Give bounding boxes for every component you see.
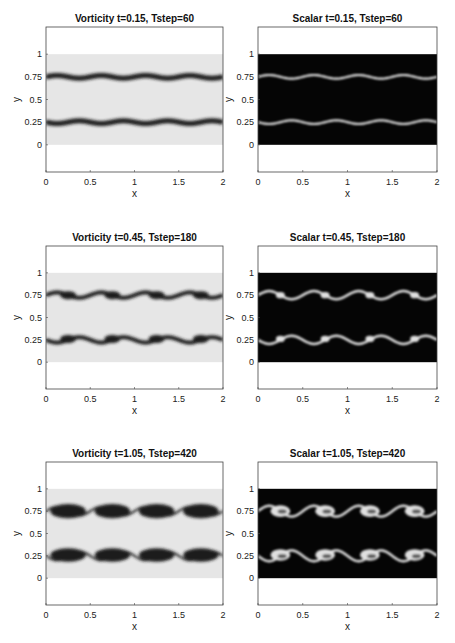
y-tick-label: 1 — [37, 484, 42, 494]
x-tick-label: 0 — [255, 394, 260, 404]
x-tick-label: 1.5 — [172, 394, 185, 404]
y-tick-label: 0 — [37, 357, 42, 367]
vortex-core — [50, 504, 85, 518]
y-tick-label: 0.5 — [29, 95, 42, 105]
x-tick-label: 0 — [255, 177, 260, 187]
panel-scalar-t0.45: Scalar t=0.45, Tstep=18000.511.5200.250.… — [223, 232, 440, 416]
field-domain — [46, 54, 223, 145]
x-tick-label: 0.5 — [296, 610, 309, 620]
x-tick-label: 0 — [255, 610, 260, 620]
spiral-gap — [412, 554, 421, 558]
vortex-core — [149, 335, 165, 343]
y-tick-label: 1 — [37, 268, 42, 278]
field-domain — [258, 54, 437, 145]
panel-title: Scalar t=1.05, Tstep=420 — [290, 448, 406, 459]
spiral-gap — [412, 509, 421, 513]
x-tick-label: 1 — [345, 610, 350, 620]
y-tick-label: 0 — [249, 573, 254, 583]
x-tick-label: 0 — [43, 394, 48, 404]
spiral-gap — [322, 554, 331, 558]
spiral-gap — [367, 554, 376, 558]
x-tick-label: 0.5 — [84, 394, 97, 404]
y-tick-label: 1 — [249, 268, 254, 278]
vortex-core — [104, 335, 120, 343]
y-tick-label: 0.75 — [24, 506, 42, 516]
panel-scalar-t1.05: Scalar t=1.05, Tstep=42000.511.5200.250.… — [223, 448, 440, 632]
x-tick-label: 1 — [132, 177, 137, 187]
y-axis-label: y — [223, 315, 234, 320]
x-tick-label: 1 — [132, 610, 137, 620]
x-tick-label: 1.5 — [172, 610, 185, 620]
vortex-core — [183, 504, 218, 518]
x-tick-label: 0 — [43, 610, 48, 620]
x-axis-label: x — [132, 405, 137, 416]
x-tick-label: 0.5 — [84, 177, 97, 187]
x-tick-label: 0.5 — [296, 177, 309, 187]
y-axis-label: y — [11, 531, 22, 536]
y-tick-label: 0.25 — [236, 117, 254, 127]
vortex-core — [95, 548, 130, 561]
x-axis-label: x — [345, 621, 350, 632]
panel-title: Vorticity t=0.15, Tstep=60 — [75, 13, 195, 24]
panel-title: Vorticity t=1.05, Tstep=420 — [72, 448, 197, 459]
x-tick-label: 0 — [43, 177, 48, 187]
x-axis-label: x — [345, 405, 350, 416]
vortex-core — [193, 291, 209, 299]
y-tick-label: 0.75 — [236, 72, 254, 82]
x-tick-label: 1 — [345, 394, 350, 404]
shear-layer — [46, 121, 223, 124]
spiral-gap — [278, 509, 287, 513]
y-tick-label: 0.25 — [236, 551, 254, 561]
x-tick-label: 1.5 — [172, 177, 185, 187]
field-domain — [46, 489, 223, 578]
y-tick-label: 1 — [249, 49, 254, 59]
y-axis-label: y — [223, 531, 234, 536]
y-tick-label: 1 — [249, 484, 254, 494]
y-tick-label: 0.5 — [29, 313, 42, 323]
vortex-core — [321, 336, 330, 342]
panel-vorticity-t0.45: Vorticity t=0.45, Tstep=18000.511.5200.2… — [11, 232, 226, 416]
panel-vorticity-t0.15: Vorticity t=0.15, Tstep=6000.511.5200.25… — [11, 13, 226, 199]
x-tick-label: 2 — [220, 610, 225, 620]
vortex-core — [183, 548, 218, 561]
spiral-gap — [322, 509, 331, 513]
y-tick-label: 0.5 — [241, 529, 254, 539]
x-tick-label: 2 — [434, 610, 439, 620]
y-tick-label: 0.25 — [24, 551, 42, 561]
vortex-core — [50, 548, 85, 561]
y-tick-label: 0 — [37, 140, 42, 150]
y-tick-label: 1 — [37, 49, 42, 59]
x-tick-label: 1 — [132, 394, 137, 404]
y-axis-label: y — [11, 97, 22, 102]
figure: Vorticity t=0.15, Tstep=6000.511.5200.25… — [0, 0, 455, 643]
vortex-core — [139, 504, 174, 518]
vortex-core — [276, 336, 285, 342]
shear-layer — [46, 76, 223, 79]
y-tick-label: 0.25 — [24, 335, 42, 345]
y-tick-label: 0.75 — [236, 506, 254, 516]
y-tick-label: 0.75 — [236, 290, 254, 300]
vortex-core — [139, 548, 174, 561]
panel-title: Scalar t=0.45, Tstep=180 — [290, 232, 406, 243]
vortex-core — [276, 292, 285, 298]
vortex-core — [60, 291, 76, 299]
y-tick-label: 0.5 — [29, 529, 42, 539]
vortex-core — [149, 291, 165, 299]
x-tick-label: 2 — [434, 394, 439, 404]
vortex-core — [410, 292, 419, 298]
x-tick-label: 2 — [434, 177, 439, 187]
spiral-gap — [367, 509, 376, 513]
y-axis-label: y — [223, 97, 234, 102]
x-tick-label: 1.5 — [386, 177, 399, 187]
y-tick-label: 0.75 — [24, 290, 42, 300]
x-tick-label: 1.5 — [386, 610, 399, 620]
spiral-gap — [278, 554, 287, 558]
y-tick-label: 0 — [37, 573, 42, 583]
field-domain — [258, 273, 437, 362]
panel-title: Scalar t=0.15, Tstep=60 — [293, 13, 403, 24]
y-axis-label: y — [11, 315, 22, 320]
y-tick-label: 0.5 — [241, 95, 254, 105]
y-tick-label: 0 — [249, 357, 254, 367]
panel-title: Vorticity t=0.45, Tstep=180 — [72, 232, 197, 243]
x-axis-label: x — [132, 188, 137, 199]
